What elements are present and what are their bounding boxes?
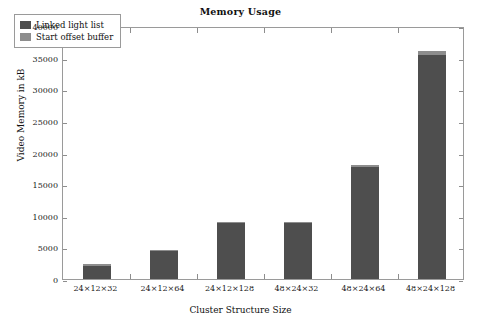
y-tick-mark-right (459, 249, 463, 250)
y-tick-mark (63, 155, 67, 156)
figure: Memory Usage Video Memory in kB Cluster … (0, 0, 481, 330)
x-tick-mark (130, 274, 131, 279)
y-axis-tick-label: 30000 (6, 86, 58, 95)
y-tick-mark (63, 281, 67, 282)
x-tick-mark-top (398, 28, 399, 33)
legend-item[interactable]: Start offset buffer (20, 31, 113, 43)
x-tick-mark (331, 274, 332, 279)
x-tick-mark-top (331, 28, 332, 33)
bar-segment-linked-light-list[interactable] (217, 223, 245, 279)
x-tick-mark-top (264, 28, 265, 33)
y-axis-tick-label: 5000 (6, 244, 58, 253)
bar-segment-linked-light-list[interactable] (83, 266, 111, 279)
plot-inner (63, 28, 463, 279)
legend-item-label: Start offset buffer (36, 31, 113, 43)
bar[interactable] (217, 222, 245, 279)
bar[interactable] (150, 250, 178, 279)
bar[interactable] (351, 165, 379, 279)
bar[interactable] (83, 264, 111, 279)
y-tick-mark (63, 249, 67, 250)
x-axis-title: Cluster Structure Size (0, 305, 481, 315)
y-axis-tick-label: 10000 (6, 212, 58, 221)
plot-area (62, 27, 464, 280)
x-tick-mark (264, 274, 265, 279)
y-tick-mark (63, 218, 67, 219)
y-axis-tick-label: 20000 (6, 149, 58, 158)
x-tick-mark (197, 274, 198, 279)
bar-segment-linked-light-list[interactable] (150, 251, 178, 279)
y-tick-mark (63, 91, 67, 92)
legend-swatch-icon (20, 33, 31, 41)
y-axis-tick-label: 40000 (6, 23, 58, 32)
y-tick-mark (63, 186, 67, 187)
y-tick-mark (63, 123, 67, 124)
y-tick-mark-right (459, 28, 463, 29)
y-tick-mark-right (459, 186, 463, 187)
x-tick-mark (398, 274, 399, 279)
y-tick-mark-right (459, 91, 463, 92)
x-axis-tick-label: 48×24×128 (391, 284, 471, 293)
y-axis-tick-label: 25000 (6, 117, 58, 126)
y-axis-tick-label: 15000 (6, 181, 58, 190)
y-tick-mark (63, 60, 67, 61)
bar-segment-linked-light-list[interactable] (418, 55, 446, 279)
bar-segment-linked-light-list[interactable] (351, 167, 379, 279)
bar-segment-linked-light-list[interactable] (284, 223, 312, 279)
bar[interactable] (418, 51, 446, 279)
y-tick-mark-right (459, 60, 463, 61)
y-axis-tick-label: 35000 (6, 54, 58, 63)
y-axis-tick-label: 0 (6, 276, 58, 285)
y-tick-mark-right (459, 155, 463, 156)
bar[interactable] (284, 222, 312, 279)
y-tick-mark-right (459, 123, 463, 124)
y-tick-mark-right (459, 218, 463, 219)
x-tick-mark-top (130, 28, 131, 33)
x-tick-mark-top (197, 28, 198, 33)
y-tick-mark-right (459, 281, 463, 282)
